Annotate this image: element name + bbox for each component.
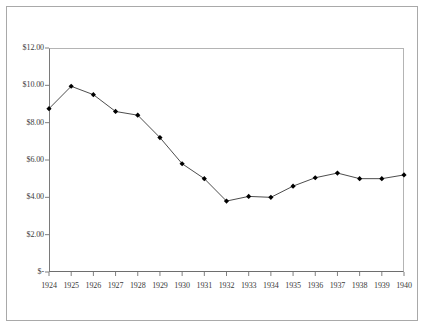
- plot-area: [49, 48, 404, 272]
- x-axis-tick-label: 1940: [388, 281, 420, 290]
- y-axis-tick-label: $6.00: [8, 155, 44, 164]
- y-axis-tick-label: $-: [8, 267, 44, 276]
- y-axis-tick-label: $2.00: [8, 230, 44, 239]
- y-axis-tick-label: $8.00: [8, 118, 44, 127]
- y-axis-tick-label: $12.00: [8, 43, 44, 52]
- y-axis-tick-label: $10.00: [8, 80, 44, 89]
- y-axis-tick-label: $4.00: [8, 192, 44, 201]
- chart-screenshot: $-$2.00$4.00$6.00$8.00$10.00$12.00 19241…: [0, 0, 426, 329]
